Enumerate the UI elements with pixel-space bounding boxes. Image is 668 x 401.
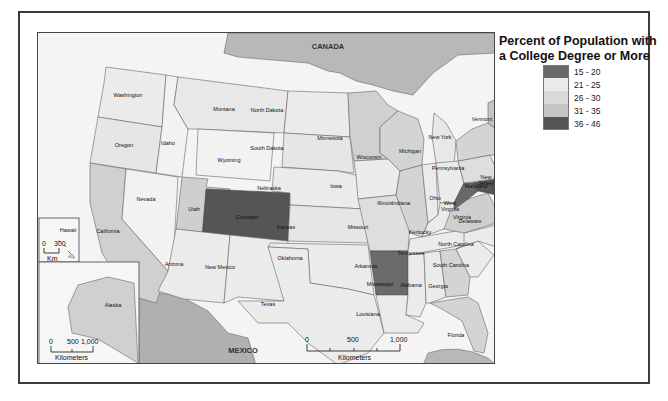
legend-swatch [543,65,569,78]
label-kansas: Kansas [277,224,296,230]
label-nebraska: Nebraska [257,185,281,191]
label-oklahoma: Oklahoma [277,255,303,261]
label-north-dakota: North Dakota [251,107,284,113]
label-california: California [96,228,120,234]
label-tennessee: Tennessee [398,250,425,256]
legend-title: Percent of Population with a College Deg… [499,34,668,64]
label-montana: Montana [213,106,235,112]
label-texas: Texas [261,301,276,307]
label-new-jersey-2: Jersey [478,180,494,186]
label-idaho: Idaho [161,140,175,146]
state-arkansas [370,251,408,295]
label-iowa: Iowa [330,183,343,189]
svg-text:500: 500 [67,338,79,345]
label-alaska: Alaska [105,302,122,308]
label-hawaii: Hawaii [60,227,77,233]
label-pennsylvania: Pennsylvania [432,165,466,171]
label-georgia: Georgia [428,283,449,289]
label-new-york: New York [428,134,451,140]
state-iowa [354,159,400,199]
label-michigan: Michigan [399,148,421,154]
label-florida: Florida [448,332,466,338]
label-mexico: MEXICO [228,346,258,355]
svg-text:0: 0 [49,338,53,345]
label-wyoming: Wyoming [218,157,241,163]
label-minnesota: Minnesota [317,135,343,141]
svg-text:0: 0 [42,240,46,247]
legend-item: 31 - 35 [543,104,600,117]
scale-main-unit: Kilometers [338,354,372,361]
label-oregon: Oregon [115,142,133,148]
label-south-carolina: South Carolina [433,262,470,268]
map-canvas: CANADA MEXICO Washington Oregon Californ… [38,33,495,364]
legend-item: 15 - 20 [543,65,600,78]
svg-text:1,000: 1,000 [81,338,99,345]
scale-alaska-unit: Kilometers [55,354,89,361]
label-arizona: Arizona [165,261,185,267]
label-indiana: Indiana [392,200,411,206]
label-kentucky: Kentucky [409,229,432,235]
label-north-carolina: North Carolina [438,241,474,247]
label-south-dakota: South Dakota [250,145,284,151]
label-canada: CANADA [312,42,345,51]
legend-swatch [543,91,569,104]
legend-item: 26 - 30 [543,91,600,104]
label-ohio: Ohio [429,195,441,201]
label-washington: Washington [114,92,143,98]
legend-swatch [543,117,569,130]
legend-item: 21 - 25 [543,78,600,91]
label-alabama: Alabama [400,282,423,288]
label-nevada: Nevada [137,196,157,202]
label-arkansas: Arkansas [355,263,378,269]
state-wyoming [196,129,274,181]
svg-text:0: 0 [305,336,309,343]
us-choropleth-map: CANADA MEXICO Washington Oregon Californ… [37,32,495,364]
legend-swatch [543,104,569,117]
legend-item: 36 - 46 [543,117,600,130]
label-delaware: Delaware [458,218,481,224]
label-wisconsin: Wisconsin [356,154,381,160]
label-utah: Utah [188,206,200,212]
label-missouri: Missouri [348,224,368,230]
svg-text:300: 300 [54,240,66,247]
legend-swatch [543,78,569,91]
legend: 15 - 20 21 - 25 26 - 30 31 - 35 36 - 46 [543,65,600,130]
label-colorado: Colorado [236,214,258,220]
label-mississippi: Mississippi [367,281,394,287]
label-west-virginia-2: Virginia [441,206,460,212]
label-vermont: Vermont [472,116,493,122]
svg-text:500: 500 [347,336,359,343]
label-new-mexico: New Mexico [205,264,235,270]
label-illinois: Illinois [377,200,393,206]
svg-text:1,000: 1,000 [390,336,408,343]
scale-hawaii-unit: Km [47,255,58,262]
state-north-dakota [284,91,350,137]
label-louisiana: Louisiana [356,311,380,317]
